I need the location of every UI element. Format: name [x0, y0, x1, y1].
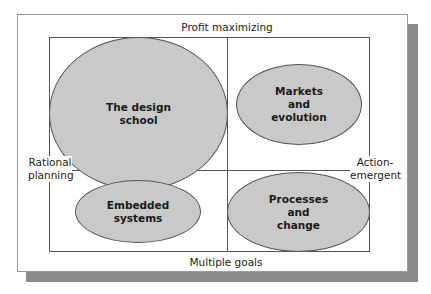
- axis-label-bottom: Multiple goals: [176, 256, 276, 269]
- quadrant-label-bottom-left: Embedded systems: [107, 199, 169, 225]
- ellipse-processes-change: Processes and change: [227, 172, 370, 252]
- ellipse-embedded-systems: Embedded systems: [75, 180, 201, 243]
- quadrant-label-top-left: The design school: [106, 101, 171, 127]
- axis-label-top: Profit maximizing: [170, 21, 284, 34]
- quadrant-label-top-right: Markets and evolution: [271, 85, 327, 124]
- axis-label-left: Rational planning: [28, 156, 72, 182]
- ellipse-design-school: The design school: [49, 37, 228, 190]
- ellipse-markets-evolution: Markets and evolution: [236, 64, 362, 145]
- quadrant-label-bottom-right: Processes and change: [269, 193, 328, 232]
- axis-label-right: Action- emergent: [350, 156, 400, 182]
